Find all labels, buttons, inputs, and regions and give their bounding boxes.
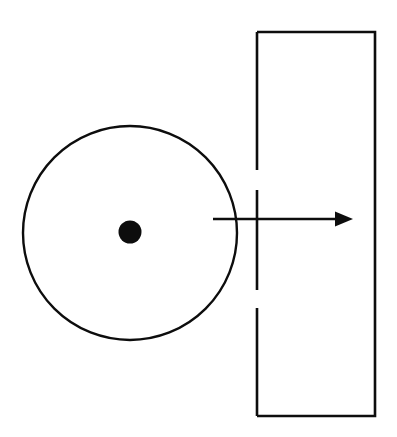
figure-canvas	[0, 0, 397, 437]
figure-root	[0, 0, 397, 437]
center-dot	[119, 221, 142, 244]
